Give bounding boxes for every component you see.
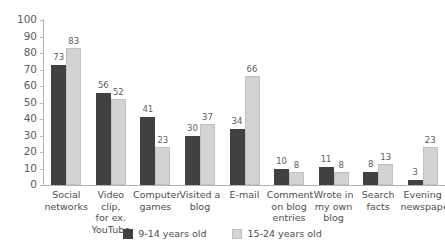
bar: 34 [230,129,245,185]
y-axis-tick: 10 [0,169,44,170]
bar: 52 [111,99,126,185]
legend-color-swatch [123,229,133,239]
y-axis-tick-label: 100 [17,13,37,26]
bar: 13 [378,164,393,185]
legend-label: 15-24 years old [247,228,321,239]
bar-value-label: 83 [68,36,79,47]
bar: 73 [51,65,66,185]
bar-group: 3466 [230,20,260,185]
legend-label: 9-14 years old [138,228,206,239]
x-axis-category-label: Computer games [133,189,178,212]
y-axis-tick-label: 90 [24,30,37,43]
x-axis-category-label: Visited a blog [178,189,223,212]
bar: 23 [423,147,438,185]
bar: 23 [155,147,170,185]
bar-value-label: 30 [187,123,198,134]
bar-value-label: 13 [380,152,391,163]
bar-value-label: 23 [157,135,168,146]
bar: 66 [245,76,260,185]
bar-group: 108 [274,20,304,185]
x-axis-category-label: Social networks [44,189,89,212]
y-axis-tick-label: 80 [24,46,37,59]
y-axis-tick-label: 60 [24,79,37,92]
legend-color-swatch [232,229,242,239]
bar: 41 [140,117,155,185]
bar-value-label: 73 [53,52,64,63]
x-axis-line [43,185,445,186]
y-axis-tick-label: 30 [24,129,37,142]
bar: 3 [408,180,423,185]
bar-value-label: 8 [368,159,373,170]
bar-value-label: 10 [276,156,287,167]
bar-group: 4123 [140,20,170,185]
y-axis-tick: 50 [0,103,44,104]
y-axis-tick-label: 20 [24,145,37,158]
bar: 8 [363,172,378,185]
bar-value-label: 23 [425,135,436,146]
bar-group: 323 [408,20,438,185]
bar-value-label: 8 [338,160,343,171]
y-axis-tick: 0 [0,185,44,186]
y-axis-tick: 100 [0,20,44,21]
y-axis-tick: 20 [0,152,44,153]
y-axis-tick: 30 [0,136,44,137]
chart-legend: 9-14 years old15-24 years old [0,228,445,239]
bar: 10 [274,169,289,186]
y-axis-tick: 80 [0,53,44,54]
y-axis-tick-label: 10 [24,162,37,175]
bar-value-label: 56 [98,80,109,91]
bar: 8 [334,172,349,185]
bar-group: 118 [319,20,349,185]
y-axis-tick: 60 [0,86,44,87]
bar: 37 [200,124,215,185]
plot-area: 73835652412330373466108118813323 [44,20,445,185]
bar-value-label: 41 [142,104,153,115]
x-axis-category-label: Search facts [356,189,401,212]
y-axis-tick-label: 0 [30,178,37,191]
y-axis-tick: 90 [0,37,44,38]
bar-chart: 0102030405060708090100 73835652412330373… [0,0,445,248]
bar: 11 [319,167,334,185]
x-axis-category-label: Evening newspaper [400,189,445,212]
y-axis-tick-label: 50 [24,96,37,109]
bar-group: 5652 [96,20,126,185]
bar: 56 [96,93,111,185]
bar-value-label: 3 [413,167,418,178]
bar-group: 7383 [51,20,81,185]
x-axis-category-label: E-mail [222,189,267,201]
x-axis-category-label: Comment on blog entries [267,189,312,224]
y-axis-tick-label: 70 [24,63,37,76]
bar-value-label: 34 [232,116,243,127]
bar-value-label: 52 [113,87,124,98]
y-axis-tick-mark [40,185,44,186]
y-axis-tick-label: 40 [24,112,37,125]
y-axis-tick: 40 [0,119,44,120]
bar: 30 [185,136,200,186]
bar-group: 3037 [185,20,215,185]
bar: 8 [289,172,304,185]
bar: 83 [66,48,81,185]
bar-value-label: 37 [202,112,213,123]
legend-item[interactable]: 9-14 years old [123,228,206,239]
bar-value-label: 8 [294,160,299,171]
bar-group: 813 [363,20,393,185]
x-axis-category-label: Wrote in my own blog [311,189,356,224]
y-axis-tick: 70 [0,70,44,71]
bar-value-label: 11 [321,154,332,165]
bar-value-label: 66 [247,64,258,75]
legend-item[interactable]: 15-24 years old [232,228,321,239]
